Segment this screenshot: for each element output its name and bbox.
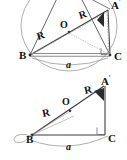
label-side-a-top: a [66,59,71,70]
label-vertex-c-bottom: C [108,132,116,144]
geometry-figure: B C A ' R R O a [0,0,127,160]
top-panel: B C A ' R R O a [19,0,122,71]
bottom-panel: B C A ' R R O a [14,74,116,152]
label-a-prime-letter-top: A [111,0,119,11]
angle-wedge-bottom [94,88,104,101]
apex-line-mid [70,0,110,9]
label-vertex-c-top: C [114,50,122,62]
figure-svg: B C A ' R R O a [0,0,127,160]
label-vertex-a-prime-top: A ' [111,0,121,11]
label-radius-2-top: R [77,8,88,21]
center-point-top [68,31,71,34]
vertex-dot-b-top [29,54,32,57]
guide-line-b-lower-bottom [32,116,74,135]
label-vertex-b-top: B [19,49,27,61]
vertex-dot-c-top [109,54,112,57]
label-center-o-top: O [60,19,68,30]
label-side-a-bottom: a [66,141,71,152]
label-vertex-b-bottom: B [26,133,34,145]
label-radius-2-bottom: R [83,84,93,96]
guide-line-b-upper-bottom [32,110,72,135]
label-a-prime-tick-top: ' [119,0,121,7]
label-a-prime-letter-bottom: A [101,75,109,87]
label-vertex-a-prime-bottom: A ' [101,74,111,87]
dotted-o-to-c-top [69,33,110,55]
label-center-o-bottom: O [62,96,70,107]
label-radius-1-bottom: R [41,107,51,119]
right-angle-mark-bottom [97,128,104,135]
label-a-prime-tick-bottom: ' [109,74,111,83]
center-point-bottom [69,110,71,112]
